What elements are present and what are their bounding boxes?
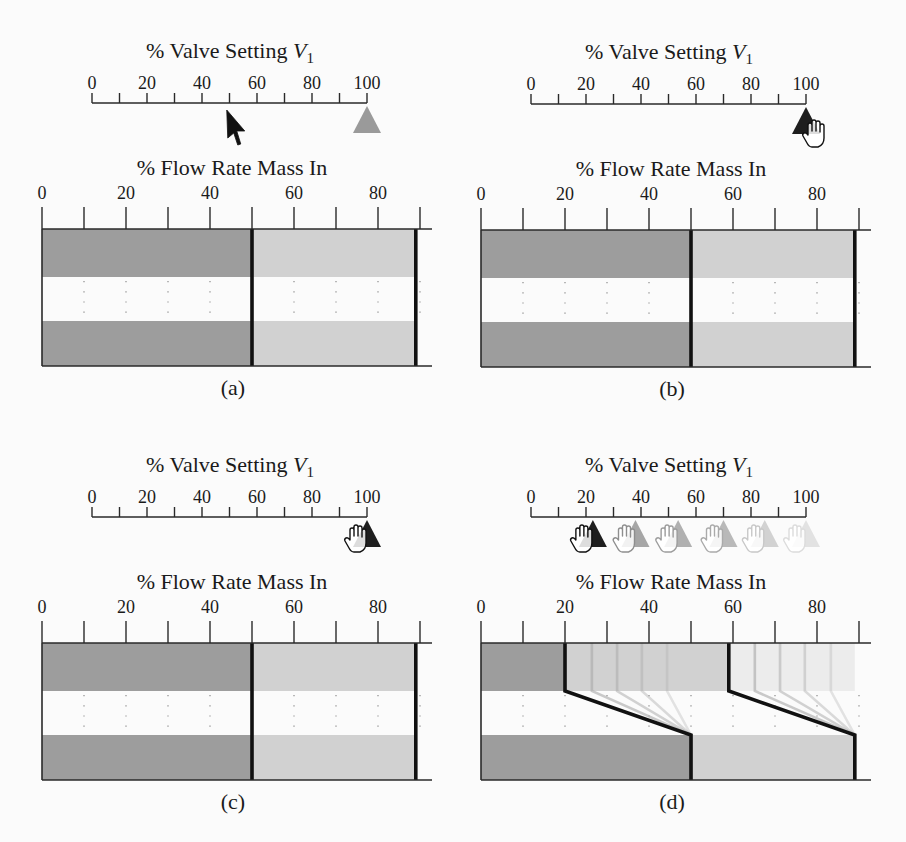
flow-tick-label: 20 [556, 597, 574, 617]
valve-title-text: % Valve Setting [146, 452, 293, 477]
panel-caption: (d) [659, 789, 685, 814]
valve-tick-label: 80 [742, 487, 760, 507]
mass-in-band-light [252, 229, 416, 277]
mass-in-band-dark [481, 643, 565, 691]
mass-in-band-light [565, 643, 729, 691]
valve-tick-label: 100 [793, 74, 820, 94]
mass-out-band-dark [42, 735, 252, 780]
mass-out-band-light [691, 322, 855, 367]
flow-tick-label: 80 [808, 184, 826, 204]
valve-tick-label: 100 [354, 73, 381, 93]
valve-tick-label: 0 [88, 73, 97, 93]
valve-thumb-marker [792, 107, 824, 147]
hand-cursor-icon [613, 525, 634, 552]
valve-thumb-marker [613, 520, 649, 552]
valve-slider-title: % Valve Setting V1 [585, 39, 753, 67]
valve-tick-label: 60 [248, 487, 266, 507]
valve-thumb-marker [345, 520, 381, 552]
mass-in-band-dark [42, 643, 252, 691]
valve-tick-label: 60 [248, 73, 266, 93]
hand-cursor-icon [784, 525, 805, 552]
valve-tick-label: 100 [354, 487, 381, 507]
panel-d: % Valve Setting V1020406080100% Flow Rat… [477, 452, 872, 814]
valve-tick-label: 40 [632, 487, 650, 507]
hand-cursor-icon [742, 525, 763, 552]
valve-setting-slider: % Valve Setting V1020406080100 [88, 452, 382, 552]
flow-tick-label: 0 [477, 597, 486, 617]
valve-tick-label: 0 [527, 487, 536, 507]
triangle-thumb-icon [353, 106, 381, 133]
valve-thumb-marker [784, 520, 820, 552]
flow-tick-label: 40 [640, 597, 658, 617]
valve-slider-title: % Valve Setting V1 [585, 452, 753, 480]
panel-caption: (b) [659, 376, 685, 401]
flow-tick-label: 40 [201, 183, 219, 203]
hand-cursor-icon [701, 525, 722, 552]
flow-tick-label: 80 [369, 183, 387, 203]
valve-tick-label: 0 [527, 74, 536, 94]
flow-tick-label: 40 [640, 184, 658, 204]
arrow-cursor-icon [227, 110, 245, 145]
mass-out-band-light [252, 735, 416, 780]
mass-out-band-dark [481, 735, 691, 780]
valve-thumb-marker [742, 520, 778, 552]
valve-tick-label: 100 [793, 487, 820, 507]
panel-caption: (a) [221, 375, 245, 400]
hand-cursor-icon [345, 525, 366, 552]
valve-tick-label: 20 [138, 73, 156, 93]
flow-tick-label: 60 [285, 183, 303, 203]
flow-tick-label: 60 [285, 597, 303, 617]
panel-c: % Valve Setting V1020406080100% Flow Rat… [38, 452, 433, 814]
valve-thumb-marker [701, 520, 737, 552]
panel-a: % Valve Setting V1020406080100% Flow Rat… [38, 38, 433, 400]
valve-tick-label: 20 [577, 487, 595, 507]
panel-b: % Valve Setting V1020406080100% Flow Rat… [477, 39, 872, 401]
flow-rate-display: % Flow Rate Mass In020406080 [38, 155, 433, 366]
valve-slider-title: % Valve Setting V1 [146, 38, 314, 66]
flow-display-title: % Flow Rate Mass In [576, 569, 767, 594]
panel-caption: (c) [221, 789, 245, 814]
flow-tick-label: 60 [724, 597, 742, 617]
flow-display-title: % Flow Rate Mass In [576, 156, 767, 181]
valve-setting-slider: % Valve Setting V1020406080100 [88, 38, 382, 145]
mass-in-band-light [252, 643, 416, 691]
valve-title-subscript: 1 [306, 464, 314, 480]
valve-tick-label: 80 [742, 74, 760, 94]
flow-tick-label: 60 [724, 184, 742, 204]
figure-stage: % Valve Setting V1020406080100% Flow Rat… [0, 0, 906, 842]
figure-canvas: % Valve Setting V1020406080100% Flow Rat… [0, 0, 906, 842]
flow-display-title: % Flow Rate Mass In [137, 155, 328, 180]
flow-tick-label: 0 [477, 184, 486, 204]
valve-title-text: % Valve Setting [585, 452, 732, 477]
flow-tick-label: 20 [556, 184, 574, 204]
valve-tick-label: 60 [687, 487, 705, 507]
valve-title-subscript: 1 [745, 464, 753, 480]
flow-rate-display: % Flow Rate Mass In020406080 [38, 569, 433, 780]
valve-tick-label: 80 [303, 73, 321, 93]
mass-in-band-dark [42, 229, 252, 277]
valve-tick-label: 60 [687, 74, 705, 94]
mass-out-band-light [252, 321, 416, 366]
mass-in-band-light [691, 230, 855, 278]
valve-tick-label: 40 [193, 487, 211, 507]
mass-in-band-faint [729, 643, 855, 691]
flow-tick-label: 0 [38, 597, 47, 617]
flow-rate-display: % Flow Rate Mass In020406080 [477, 156, 872, 367]
mass-out-band-dark [42, 321, 252, 366]
valve-thumb-marker [353, 106, 381, 133]
valve-tick-label: 0 [88, 487, 97, 507]
hand-cursor-icon [571, 525, 592, 552]
valve-setting-slider: % Valve Setting V1020406080100 [527, 452, 821, 552]
valve-title-subscript: 1 [306, 50, 314, 66]
valve-tick-label: 80 [303, 487, 321, 507]
flow-tick-label: 80 [369, 597, 387, 617]
valve-tick-label: 20 [577, 74, 595, 94]
flow-tick-label: 80 [808, 597, 826, 617]
valve-slider-title: % Valve Setting V1 [146, 452, 314, 480]
mass-out-band-dark [481, 322, 691, 367]
flow-tick-label: 0 [38, 183, 47, 203]
mass-out-band-light [691, 735, 855, 780]
flow-tick-label: 40 [201, 597, 219, 617]
valve-tick-label: 40 [193, 73, 211, 93]
flow-tick-label: 20 [117, 597, 135, 617]
